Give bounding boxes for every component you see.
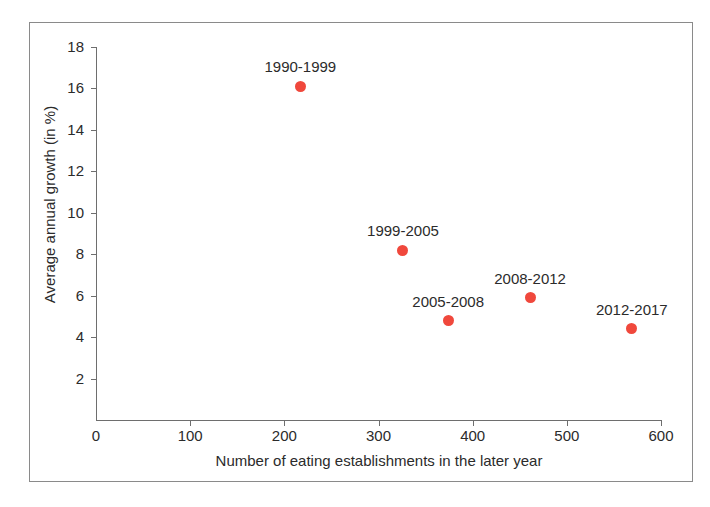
data-point-label: 1990-1999 bbox=[230, 59, 370, 74]
x-tick-label: 100 bbox=[160, 428, 220, 443]
y-tick-mark bbox=[91, 379, 96, 380]
y-tick-mark bbox=[91, 254, 96, 255]
data-point-label: 2008-2012 bbox=[460, 271, 600, 286]
data-point-label: 2005-2008 bbox=[378, 294, 518, 309]
data-point[interactable] bbox=[443, 315, 454, 326]
data-point[interactable] bbox=[397, 245, 408, 256]
x-tick-label: 300 bbox=[349, 428, 409, 443]
x-tick-mark bbox=[661, 421, 662, 426]
x-tick-label: 200 bbox=[254, 428, 314, 443]
y-tick-mark bbox=[91, 171, 96, 172]
x-axis-title: Number of eating establishments in the l… bbox=[96, 452, 662, 469]
figure-frame bbox=[29, 22, 693, 482]
y-tick-mark bbox=[91, 47, 96, 48]
data-point-label: 1999-2005 bbox=[333, 223, 473, 238]
x-tick-mark bbox=[473, 421, 474, 426]
x-tick-label: 600 bbox=[631, 428, 691, 443]
x-tick-label: 500 bbox=[537, 428, 597, 443]
y-axis-title: Average annual growth (in %) bbox=[41, 40, 58, 370]
y-tick-mark bbox=[91, 213, 96, 214]
x-tick-mark bbox=[567, 421, 568, 426]
data-point-label: 2012-2017 bbox=[562, 302, 702, 317]
x-tick-mark bbox=[379, 421, 380, 426]
x-tick-label: 400 bbox=[443, 428, 503, 443]
y-tick-label: 2 bbox=[44, 371, 84, 386]
y-tick-mark bbox=[91, 337, 96, 338]
data-point[interactable] bbox=[525, 292, 536, 303]
data-point[interactable] bbox=[295, 81, 306, 92]
y-tick-mark bbox=[91, 130, 96, 131]
y-axis-line bbox=[96, 47, 97, 421]
chart-figure: 24681012141618 0100200300400500600 Avera… bbox=[0, 0, 710, 507]
x-tick-mark bbox=[190, 421, 191, 426]
y-tick-mark bbox=[91, 88, 96, 89]
x-tick-mark bbox=[284, 421, 285, 426]
x-tick-label: 0 bbox=[66, 428, 126, 443]
y-tick-mark bbox=[91, 296, 96, 297]
